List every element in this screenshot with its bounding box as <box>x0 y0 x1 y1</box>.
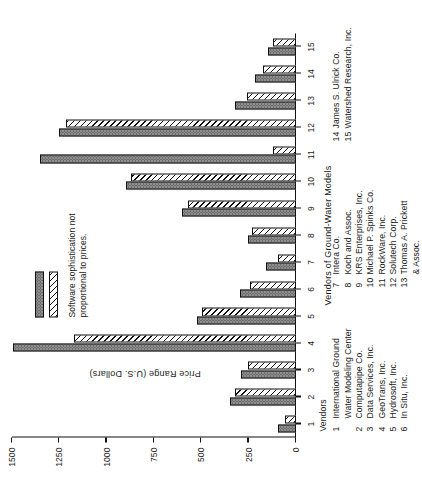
category-tick-label-14: 14 <box>306 69 316 79</box>
bar-maximum-vendor-11 <box>40 154 296 162</box>
legend-swatch-maximum <box>35 271 44 317</box>
bar-maximum-vendor-9 <box>182 208 296 216</box>
vendor-key-list-1: 1International Ground Water Modeling Cen… <box>331 328 410 431</box>
bar-maximum-vendor-7 <box>266 262 296 270</box>
vendor-number-4: 4 <box>377 418 388 431</box>
category-tick-1 <box>296 422 301 423</box>
vendor-number-1: 1 <box>331 418 354 431</box>
category-tick-label-13: 13 <box>306 96 316 106</box>
bar-maximum-vendor-10 <box>126 181 296 189</box>
bar-minimum-vendor-6 <box>250 281 296 289</box>
bar-maximum-vendor-12 <box>59 128 296 136</box>
category-tick-label-10: 10 <box>306 176 316 186</box>
vendor-name-1: International Ground Water Modeling Cent… <box>331 328 354 418</box>
vendor-name-14: James S. Ulrick Co. <box>331 51 342 128</box>
bar-minimum-vendor-4 <box>74 334 296 342</box>
legend-note: Software sophistication not proportional… <box>67 205 88 317</box>
vendor-number-6: 6 <box>399 418 410 431</box>
bar-minimum-vendor-10 <box>131 173 296 181</box>
vendor-name-8: Koch and Assoc. <box>343 208 354 274</box>
category-tick-6 <box>296 288 301 289</box>
vendor-entry-6: 6In Situ, Inc. <box>399 328 410 431</box>
vendor-entry-8: 8Koch and Assoc. <box>343 189 354 287</box>
value-tick-label-250: 250 <box>244 443 254 461</box>
bar-minimum-vendor-7 <box>278 254 296 262</box>
category-tick-9 <box>296 207 301 208</box>
vendor-name-2: Computapipe Co. <box>354 350 365 418</box>
vendor-number-11: 11 <box>377 274 388 287</box>
bar-maximum-vendor-14 <box>255 74 296 82</box>
value-tick-750 <box>153 437 154 442</box>
bar-maximum-vendor-1 <box>278 424 296 432</box>
bar-minimum-vendor-15 <box>273 38 296 46</box>
bar-minimum-vendor-5 <box>202 307 296 315</box>
category-tick-15 <box>296 45 301 46</box>
bar-minimum-vendor-14 <box>263 65 296 73</box>
vendor-number-14: 14 <box>331 128 342 141</box>
bar-maximum-vendor-8 <box>248 235 296 243</box>
vendor-number-12: 12 <box>388 274 399 287</box>
value-tick-label-1000: 1000 <box>102 443 112 466</box>
value-tick-label-1250: 1250 <box>54 443 64 466</box>
vendor-entry-9: 9KRS Enterprises, Inc. <box>354 189 365 287</box>
vendor-key-title: Vendors <box>318 328 329 431</box>
vendor-name-13: Thomas A. Prickett & Assoc. <box>399 200 422 274</box>
value-tick-500 <box>200 437 201 442</box>
value-axis-line <box>12 436 296 437</box>
bar-minimum-vendor-13 <box>247 92 296 100</box>
vendor-name-12: Solutech Corp. <box>388 216 399 274</box>
vendor-number-13: 13 <box>399 274 422 287</box>
category-tick-2 <box>296 395 301 396</box>
value-tick-0 <box>295 437 296 442</box>
bar-minimum-vendor-3 <box>248 361 296 369</box>
category-tick-label-9: 9 <box>306 206 316 211</box>
vendor-entry-10: 10Michael P. Spinks Co. <box>365 189 376 287</box>
legend-row-minimum: Minimum <box>48 205 58 317</box>
value-tick-label-0: 0 <box>291 443 301 452</box>
vendor-number-2: 2 <box>354 418 365 431</box>
bar-maximum-vendor-3 <box>241 370 296 378</box>
category-tick-5 <box>296 315 301 316</box>
category-tick-14 <box>296 72 301 73</box>
vendor-name-6: In Situ, Inc. <box>399 374 410 418</box>
category-tick-3 <box>296 368 301 369</box>
plot-area: 123456789101112131415 025050075010001250… <box>12 33 296 437</box>
vendor-name-7: Intera Co. <box>331 235 342 274</box>
vendor-number-15: 15 <box>343 128 354 141</box>
category-tick-12 <box>296 126 301 127</box>
category-tick-label-8: 8 <box>306 233 316 238</box>
category-tick-11 <box>296 153 301 154</box>
bar-minimum-vendor-9 <box>188 200 296 208</box>
vendor-entry-12: 12Solutech Corp. <box>388 189 399 287</box>
bar-minimum-vendor-2 <box>235 388 296 396</box>
category-tick-label-5: 5 <box>306 313 316 318</box>
vendor-number-9: 9 <box>354 274 365 287</box>
bar-minimum-vendor-12 <box>66 119 296 127</box>
category-tick-label-3: 3 <box>306 367 316 372</box>
bar-maximum-vendor-15 <box>268 47 296 55</box>
vendor-key-column-1: Vendors 1International Ground Water Mode… <box>318 328 411 431</box>
vendor-name-15: Watershed Research, Inc. <box>343 27 354 128</box>
bar-minimum-vendor-8 <box>252 227 296 235</box>
vendor-number-5: 5 <box>388 418 399 431</box>
value-tick-label-500: 500 <box>196 443 206 461</box>
legend-row-maximum: Maximum <box>34 205 44 317</box>
chart-legend: Maximum Minimum Software sophistication … <box>34 205 88 317</box>
bar-maximum-vendor-6 <box>240 289 296 297</box>
bar-minimum-vendor-11 <box>273 146 296 154</box>
vendor-entry-7: 7Intera Co. <box>331 189 342 287</box>
vendor-name-4: GeoTrans, Inc. <box>377 360 388 418</box>
vendor-key-column-3: 14James S. Ulrick Co.15Watershed Researc… <box>318 27 354 141</box>
value-tick-1250 <box>58 437 59 442</box>
category-tick-label-11: 11 <box>306 150 316 159</box>
vendor-number-8: 8 <box>343 274 354 287</box>
vendor-key-title-spacer <box>318 189 329 287</box>
category-tick-label-12: 12 <box>306 122 316 132</box>
vendor-entry-13: 13Thomas A. Prickett & Assoc. <box>399 189 422 287</box>
vendor-name-11: RockWare, Inc. <box>377 214 388 274</box>
category-tick-7 <box>296 261 301 262</box>
value-tick-1000 <box>105 437 106 442</box>
bar-maximum-vendor-4 <box>13 343 296 351</box>
category-tick-label-1: 1 <box>306 421 316 426</box>
